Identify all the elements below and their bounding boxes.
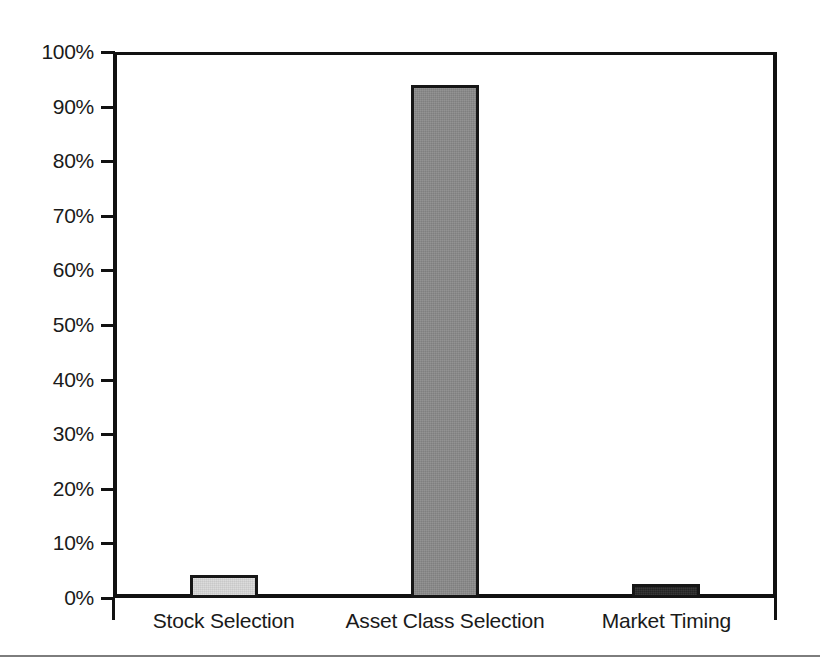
y-axis-tick-label: 30% xyxy=(53,423,94,444)
y-axis-tick-label: 80% xyxy=(53,150,94,171)
y-axis-tick-label: 40% xyxy=(53,369,94,390)
chart-figure: 0%10%20%30%40%50%60%70%80%90%100% Stock … xyxy=(0,0,820,671)
y-axis-tick-label: 20% xyxy=(53,478,94,499)
bar-market-timing xyxy=(632,584,700,598)
y-axis-tick-label: 10% xyxy=(53,532,94,553)
y-axis-tick-label: 70% xyxy=(53,205,94,226)
y-axis-tick-label: 50% xyxy=(53,314,94,335)
y-axis-tick-label: 0% xyxy=(64,587,94,608)
x-axis-category-label: Asset Class Selection xyxy=(334,610,555,631)
page-bottom-rule xyxy=(0,655,820,657)
x-axis-category-label: Stock Selection xyxy=(113,610,334,631)
bar-asset-class-selection xyxy=(411,85,479,598)
y-axis-tick-label: 100% xyxy=(41,41,94,62)
y-axis-tick-label: 60% xyxy=(53,259,94,280)
x-axis-category-label: Market Timing xyxy=(556,610,777,631)
bar-stock-selection xyxy=(190,575,258,598)
y-axis-tick-label: 90% xyxy=(53,96,94,117)
